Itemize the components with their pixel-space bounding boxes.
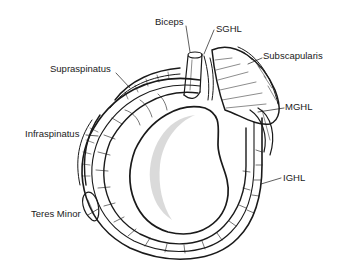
label-infraspinatus: Infraspinatus (25, 129, 79, 139)
supraspinatus-muscle (110, 68, 180, 108)
shoulder-anatomy-diagram: Biceps SGHL Subscapularis Supraspinatus … (0, 0, 343, 274)
sghl-ligament (204, 56, 213, 100)
label-subscapularis: Subscapularis (263, 51, 323, 61)
infraspinatus-muscle (78, 115, 100, 185)
glenoid (130, 107, 228, 234)
label-sghl: SGHL (216, 24, 242, 34)
label-biceps: Biceps (155, 17, 184, 27)
capsule-fibers (96, 94, 250, 253)
label-ighl: IGHL (283, 173, 305, 183)
label-supraspinatus: Supraspinatus (50, 64, 111, 74)
label-teres-minor: Teres Minor (31, 209, 81, 219)
label-mghl: MGHL (285, 102, 312, 112)
teres-minor-muscle (83, 192, 99, 221)
cartilage-shading (150, 115, 195, 220)
biceps-tendon (184, 52, 202, 98)
